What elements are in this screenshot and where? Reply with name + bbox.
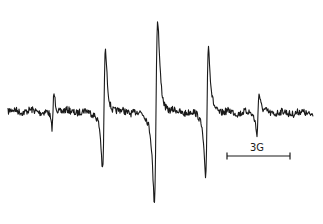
epr-spectrum-plot bbox=[0, 0, 323, 224]
spectrum-trace bbox=[8, 22, 313, 203]
scale-bar-label: 3G bbox=[250, 141, 264, 154]
